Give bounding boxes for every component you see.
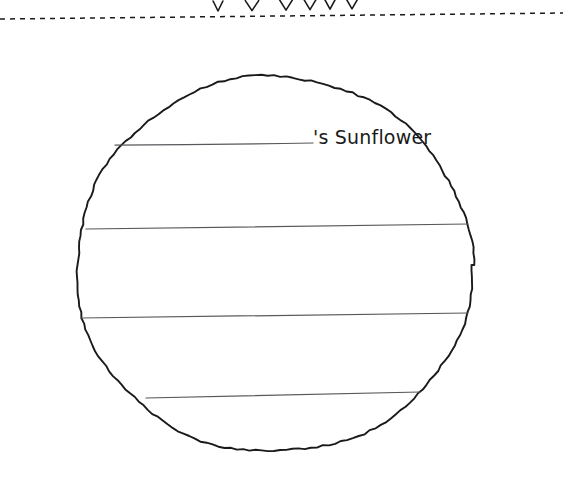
- page-title: 's Sunflower: [313, 126, 431, 148]
- sunflower-drawing: [0, 0, 563, 492]
- sunflower-worksheet: [0, 0, 563, 492]
